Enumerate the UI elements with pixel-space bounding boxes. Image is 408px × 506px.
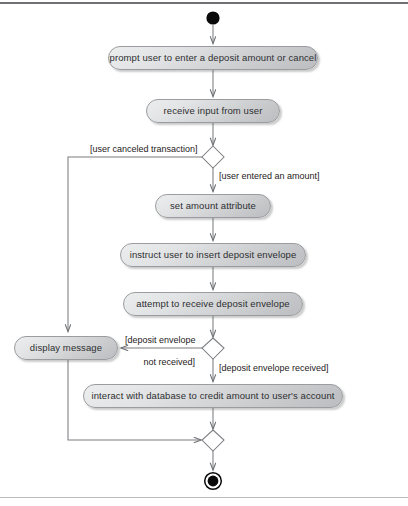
final-node bbox=[205, 473, 222, 490]
action-set-amount-attribute[interactable]: set amount attribute bbox=[155, 194, 271, 218]
initial-node bbox=[206, 11, 219, 24]
guard-envelope-received: [deposit envelope received] bbox=[219, 363, 329, 374]
decision-node-input bbox=[202, 146, 224, 168]
action-receive-input[interactable]: receive input from user bbox=[146, 99, 280, 123]
guard-user-entered-an-amount: [user entered an amount] bbox=[219, 171, 320, 182]
guard-envelope-not-received: [deposit envelope not received] bbox=[115, 324, 195, 379]
action-label: set amount attribute bbox=[170, 201, 256, 212]
activity-diagram-page: prompt user to enter a deposit amount or… bbox=[0, 0, 408, 506]
guard-line-1: [deposit envelope bbox=[125, 335, 196, 345]
merge-node bbox=[202, 430, 224, 451]
decision-node-envelope bbox=[202, 338, 224, 359]
action-label: prompt user to enter a deposit amount or… bbox=[110, 53, 317, 64]
action-label: receive input from user bbox=[164, 106, 263, 117]
action-prompt-user[interactable]: prompt user to enter a deposit amount or… bbox=[108, 46, 318, 70]
action-attempt-receive-envelope[interactable]: attempt to receive deposit envelope bbox=[123, 292, 303, 316]
action-display-message[interactable]: display message bbox=[14, 336, 118, 360]
guard-line-2: not received] bbox=[143, 357, 195, 367]
action-instruct-insert-envelope[interactable]: instruct user to insert deposit envelope bbox=[120, 243, 306, 267]
guard-user-canceled-transaction: [user canceled transaction] bbox=[90, 144, 198, 155]
action-label: display message bbox=[30, 343, 102, 354]
action-label: instruct user to insert deposit envelope bbox=[130, 250, 297, 261]
action-label: attempt to receive deposit envelope bbox=[136, 299, 289, 310]
action-label: interact with database to credit amount … bbox=[91, 391, 334, 402]
action-interact-with-database[interactable]: interact with database to credit amount … bbox=[83, 384, 343, 408]
